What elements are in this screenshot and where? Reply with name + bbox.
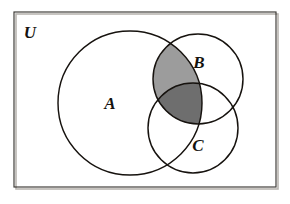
universe-label: U	[24, 23, 37, 42]
venn-diagram-figure: U A B C	[0, 0, 290, 204]
set-c-label: C	[192, 136, 204, 155]
set-a-label: A	[103, 94, 115, 113]
set-b-label: B	[192, 53, 204, 72]
venn-diagram-canvas: U A B C	[0, 0, 290, 204]
